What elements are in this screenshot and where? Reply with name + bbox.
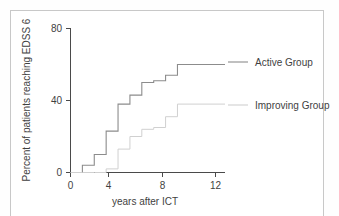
x-tick-label-8: 8 [160, 180, 166, 191]
y-tick-label-0: 0 [56, 167, 62, 178]
x-tick-label-0: 0 [68, 180, 74, 191]
series-line-active-group [71, 65, 226, 173]
x-tick-label-12: 12 [210, 180, 222, 191]
y-tick-label-80: 80 [51, 23, 63, 34]
chart-canvas: 80 40 0 0 4 8 12 years after ICT Percent… [0, 0, 339, 216]
legend-label-active-group: Active Group [255, 57, 313, 68]
series-line-improving-group [71, 104, 226, 172]
legend-label-improving-group: Improving Group [255, 100, 330, 111]
y-tick-label-40: 40 [51, 95, 63, 106]
x-axis-title: years after ICT [112, 196, 178, 207]
figure-container: 80 40 0 0 4 8 12 years after ICT Percent… [0, 0, 339, 216]
y-axis-title: Percent of patients reaching EDSS 6 [21, 18, 32, 181]
x-tick-label-4: 4 [106, 180, 112, 191]
